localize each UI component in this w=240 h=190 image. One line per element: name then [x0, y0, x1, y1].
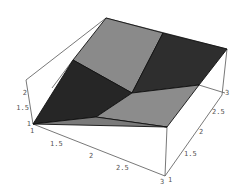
surface-plot-3d: 2 1.5 1 1 1.5 2 2.5 3 1 1.5 2 2.5 3	[0, 0, 240, 190]
z-axis: 2 1.5 1	[16, 89, 31, 128]
x-tick: 1	[30, 127, 34, 135]
y-tick: 1.5	[184, 150, 197, 158]
surface	[33, 18, 227, 127]
y-tick: 3	[225, 89, 229, 97]
x-tick: 1.5	[50, 140, 63, 148]
y-tick: 2	[199, 128, 203, 136]
y-tick: 1	[168, 176, 172, 184]
x-tick: 2.5	[116, 164, 129, 172]
y-tick: 2.5	[212, 108, 225, 116]
x-axis: 1 1.5 2 2.5 3	[30, 127, 164, 186]
x-tick: 2	[89, 152, 93, 160]
z-tick: 2	[23, 89, 27, 97]
z-tick: 1.5	[16, 104, 29, 112]
x-tick: 3	[160, 178, 164, 186]
